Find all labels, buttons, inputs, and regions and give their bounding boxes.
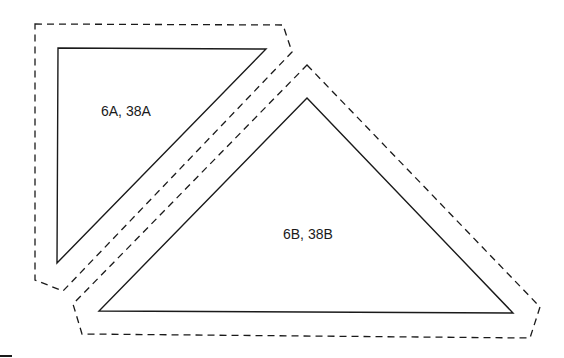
diagram-canvas: 6A, 38A 6B, 38B: [0, 0, 564, 358]
region-a-label: 6A, 38A: [101, 103, 151, 119]
region-a-dashed-outline: [35, 24, 292, 291]
region-a: 6A, 38A: [35, 24, 292, 291]
region-b-triangle: [99, 98, 513, 313]
region-a-triangle: [57, 48, 266, 263]
region-b-label: 6B, 38B: [283, 226, 333, 242]
